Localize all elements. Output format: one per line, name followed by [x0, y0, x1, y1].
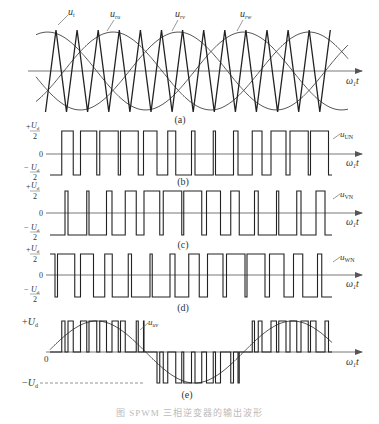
label-minus-ud: −Ud	[22, 377, 38, 389]
leader-urv	[172, 20, 178, 31]
label-urv: urv	[175, 8, 185, 20]
svg-text:2: 2	[33, 233, 37, 242]
axis-label: ω1t	[346, 157, 359, 169]
spwm-figure: ut uru urv urw ω1t (a) +Ud20−Ud2uUNω1t(b…	[0, 0, 379, 424]
panel-label-a: (a)	[174, 114, 185, 126]
axis-label-e: ω1t	[346, 356, 359, 368]
label-uvn: uVN	[340, 189, 354, 200]
label-zero: 0	[39, 209, 43, 218]
leader-ut	[58, 15, 68, 25]
label-plus-ud-half: +Ud	[26, 121, 40, 131]
label-minus-ud-half: −Ud	[24, 285, 40, 295]
uun-waveform	[50, 131, 332, 175]
label-uuv: uuv	[148, 317, 159, 328]
uwn-waveform	[50, 254, 332, 297]
leader-urw	[237, 20, 243, 31]
figure-caption: 图 SPWM 三相逆变器的输出波形	[0, 406, 379, 419]
label-minus-ud-half: −Ud	[24, 163, 40, 173]
label-uru: uru	[110, 8, 120, 20]
leader-uru	[107, 20, 114, 31]
label-ut: ut	[68, 6, 75, 18]
label-zero: 0	[39, 271, 43, 280]
axis-label: ω1t	[346, 216, 359, 228]
panel-label: (c)	[177, 239, 188, 251]
label-uun: uUN	[340, 129, 354, 140]
panel-a: ut uru urv urw ω1t (a)	[28, 6, 362, 126]
panel-b: +Ud20−Ud2uUNω1t(b)	[24, 121, 362, 188]
label-plus-ud-half: +Ud	[26, 244, 40, 254]
panel-e: +Ud 0 −Ud uuv ω1t (e)	[22, 316, 362, 401]
label-uwn: uWN	[340, 252, 355, 263]
svg-text:2: 2	[33, 132, 37, 141]
panel-d: +Ud20−Ud2uWNω1t(d)	[24, 244, 362, 314]
label-plus-ud-half: +Ud	[26, 181, 40, 191]
label-zero-e: 0	[44, 354, 49, 364]
label-minus-ud-half: −Ud	[24, 223, 40, 233]
svg-text:2: 2	[33, 255, 37, 264]
axis-label: ω1t	[346, 278, 359, 290]
svg-text:2: 2	[33, 192, 37, 201]
panel-label-e: (e)	[181, 389, 192, 401]
svg-text:2: 2	[33, 295, 37, 304]
label-plus-ud: +Ud	[22, 316, 38, 328]
label-zero: 0	[39, 150, 43, 159]
panel-label: (d)	[177, 302, 189, 314]
panel-c: +Ud20−Ud2uVNω1t(c)	[24, 181, 362, 251]
panel-label: (b)	[177, 176, 189, 188]
axis-label-a: ω1t	[346, 75, 359, 87]
label-urw: urw	[240, 8, 251, 20]
